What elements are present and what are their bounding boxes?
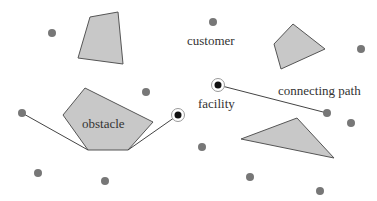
connecting-path-label: connecting path — [278, 83, 361, 98]
obstacle-triangle — [241, 118, 334, 158]
customer-dot — [101, 177, 109, 185]
obstacle-quad-2 — [274, 24, 325, 69]
customer-dot — [198, 143, 206, 151]
customer-label: customer — [187, 33, 235, 48]
customer-dot — [316, 187, 324, 195]
customer-dot — [142, 88, 150, 96]
customer-dot — [347, 119, 355, 127]
customer-dot — [357, 45, 365, 53]
obstacle-quad-1 — [78, 12, 123, 64]
customer-dot — [323, 109, 331, 117]
facility-location-diagram: customer obstacle facility connecting pa… — [0, 0, 377, 201]
customer-dot — [34, 169, 42, 177]
facility-label: facility — [198, 96, 235, 111]
customer-dot — [209, 18, 217, 26]
customer-dot — [48, 29, 56, 37]
customer-dot — [246, 173, 254, 181]
obstacle-label: obstacle — [82, 116, 125, 131]
customer-dot — [18, 109, 26, 117]
facility-2 — [212, 79, 225, 92]
facility-1 — [172, 109, 185, 122]
